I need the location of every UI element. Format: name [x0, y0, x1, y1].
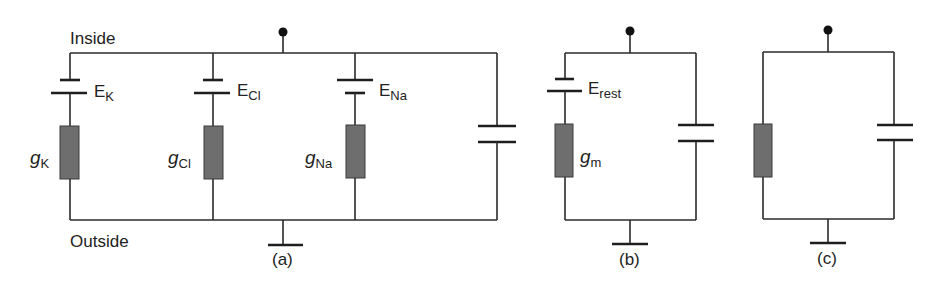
circuit-diagram [0, 0, 935, 289]
outside-label: Outside [70, 233, 129, 250]
resistor-icon [346, 125, 365, 178]
panel-b-circuit [547, 27, 714, 245]
panel-c-caption: (c) [817, 250, 837, 267]
conductance-label-gk: gK [30, 148, 49, 167]
conductance-label-gna: gNa [305, 148, 332, 167]
resistor-icon [204, 126, 223, 179]
inside-label: Inside [70, 30, 115, 47]
resistor-icon [60, 126, 79, 179]
potassium-branch [51, 53, 87, 220]
conductance-label-gm: gm [580, 147, 601, 166]
capacitor-branch [478, 53, 516, 220]
battery-label-erest: Erest [588, 80, 621, 97]
inside-terminal-icon [279, 28, 288, 37]
battery-label-ecl: ECl [237, 82, 261, 99]
panel-a-caption: (a) [272, 251, 293, 268]
battery-label-ena: ENa [379, 82, 407, 99]
resistor-icon [555, 124, 573, 177]
panel-a-circuit [51, 28, 516, 246]
panel-c-circuit [754, 26, 913, 244]
inside-terminal-icon [824, 26, 833, 35]
panel-b-caption: (b) [619, 251, 640, 268]
battery-label-ek: EK [94, 83, 114, 100]
resistor-icon [754, 124, 772, 177]
conductance-label-gcl: gCl [168, 148, 191, 167]
chloride-branch [194, 53, 230, 220]
inside-terminal-icon [626, 27, 635, 36]
sodium-branch [337, 53, 373, 220]
